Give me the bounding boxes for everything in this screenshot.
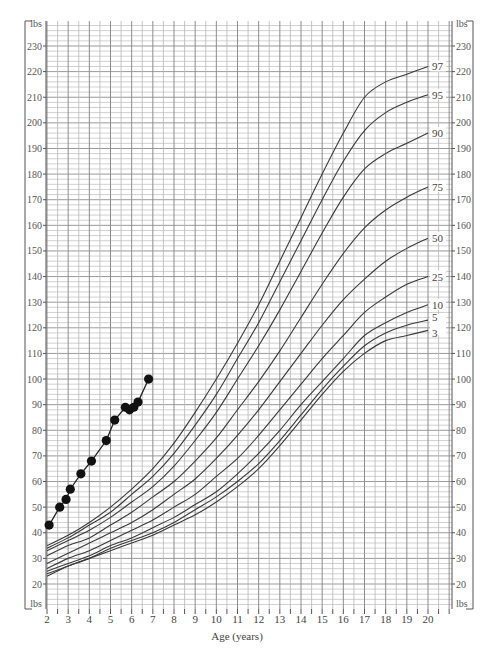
y-tick-label-left: 50 <box>32 502 42 513</box>
percentile-label-3: 3 <box>432 327 438 339</box>
y-tick-label-right: 170 <box>456 194 471 205</box>
y-tick-label-left: 130 <box>27 297 42 308</box>
y-tick-label-left: 140 <box>27 271 42 282</box>
patient-data-point <box>102 436 111 445</box>
y-tick-label-right: 50 <box>456 502 466 513</box>
x-tick-label: 4 <box>87 613 93 625</box>
percentile-label-25: 25 <box>432 271 444 283</box>
y-tick-label-right: 140 <box>456 271 471 282</box>
x-tick-label: 3 <box>65 613 71 625</box>
x-tick-label: 12 <box>253 613 264 625</box>
patient-data-point <box>87 456 96 465</box>
y-tick-label-left: 160 <box>27 220 42 231</box>
y-tick-label-left: 220 <box>27 66 42 77</box>
percentile-label-95: 95 <box>432 89 444 101</box>
patient-data-point <box>76 469 85 478</box>
patient-data-point <box>133 398 142 407</box>
y-tick-label-right: 210 <box>456 92 471 103</box>
y-tick-label-right: 100 <box>456 374 471 385</box>
y-tick-label-right: 80 <box>456 425 466 436</box>
y-tick-label-left: 60 <box>32 476 42 487</box>
y-tick-label-left: 230 <box>27 41 42 52</box>
growth-chart: 2030405060708090100110120130140150160170… <box>0 0 496 662</box>
y-tick-label-right: 150 <box>456 245 471 256</box>
x-tick-label: 20 <box>423 613 435 625</box>
y-tick-label-right: 20 <box>456 579 466 590</box>
x-tick-label: 11 <box>232 613 243 625</box>
patient-data-point <box>55 503 64 512</box>
y-tick-label-left: 20 <box>32 579 42 590</box>
patient-series <box>45 374 154 529</box>
right-bracket <box>466 21 473 609</box>
x-tick-label: 14 <box>296 613 308 625</box>
y-tick-label-right: 230 <box>456 41 471 52</box>
percentile-label-50: 50 <box>432 232 444 244</box>
y-tick-label-right: 160 <box>456 220 471 231</box>
y-axis-right: 2030405060708090100110120130140150160170… <box>452 18 471 609</box>
y-tick-label-right: 190 <box>456 143 471 154</box>
y-tick-label-left: 70 <box>32 450 42 461</box>
y-tick-label-left: 180 <box>27 169 42 180</box>
y-tick-label-right: 60 <box>456 476 466 487</box>
patient-data-point <box>144 374 153 383</box>
left-bracket <box>25 21 32 609</box>
y-tick-label-right: 90 <box>456 399 466 410</box>
y-tick-label-right: 220 <box>456 66 471 77</box>
x-tick-label: 16 <box>338 613 350 625</box>
x-axis: 234567891011121314151617181920 <box>44 609 449 625</box>
y-tick-label-right: 130 <box>456 297 471 308</box>
patient-data-point <box>45 520 54 529</box>
x-tick-label: 15 <box>317 613 329 625</box>
y-unit-label-top: lbs <box>456 18 468 29</box>
x-tick-label: 13 <box>274 613 286 625</box>
y-unit-label-bottom: lbs <box>456 598 468 609</box>
x-tick-label: 10 <box>211 613 223 625</box>
patient-data-point <box>66 485 75 494</box>
percentile-label-90: 90 <box>432 127 444 139</box>
percentile-label-97: 97 <box>432 60 444 72</box>
y-tick-label-right: 120 <box>456 322 471 333</box>
y-tick-label-right: 110 <box>456 348 471 359</box>
x-axis-title: Age (years) <box>211 630 263 643</box>
y-axis-left: 2030405060708090100110120130140150160170… <box>27 18 46 609</box>
y-tick-label-left: 190 <box>27 143 42 154</box>
x-tick-label: 8 <box>171 613 177 625</box>
patient-data-point <box>61 495 70 504</box>
y-tick-label-left: 210 <box>27 92 42 103</box>
y-tick-label-left: 150 <box>27 245 42 256</box>
patient-data-point <box>110 415 119 424</box>
y-tick-label-right: 70 <box>456 450 466 461</box>
x-tick-label: 9 <box>192 613 198 625</box>
y-tick-label-right: 40 <box>456 527 466 538</box>
y-unit-label-bottom: lbs <box>30 598 42 609</box>
y-tick-label-left: 200 <box>27 117 42 128</box>
x-tick-label: 6 <box>129 613 135 625</box>
y-tick-label-left: 120 <box>27 322 42 333</box>
y-tick-label-left: 170 <box>27 194 42 205</box>
y-tick-label-right: 180 <box>456 169 471 180</box>
y-tick-label-left: 90 <box>32 399 42 410</box>
x-tick-label: 18 <box>380 613 392 625</box>
y-tick-label-left: 110 <box>27 348 42 359</box>
percentile-label-10: 10 <box>432 299 444 311</box>
percentile-label-5: 5 <box>432 311 438 323</box>
x-tick-label: 7 <box>150 613 156 625</box>
x-tick-label: 5 <box>108 613 114 625</box>
x-tick-label: 17 <box>359 613 371 625</box>
y-tick-label-left: 40 <box>32 527 42 538</box>
y-tick-label-right: 200 <box>456 117 471 128</box>
y-tick-label-left: 80 <box>32 425 42 436</box>
y-tick-label-right: 30 <box>456 553 466 564</box>
y-tick-label-left: 30 <box>32 553 42 564</box>
x-tick-label: 2 <box>44 613 50 625</box>
x-tick-label: 19 <box>401 613 413 625</box>
percentile-label-75: 75 <box>432 181 444 193</box>
y-unit-label-top: lbs <box>30 18 42 29</box>
y-tick-label-left: 100 <box>27 374 42 385</box>
